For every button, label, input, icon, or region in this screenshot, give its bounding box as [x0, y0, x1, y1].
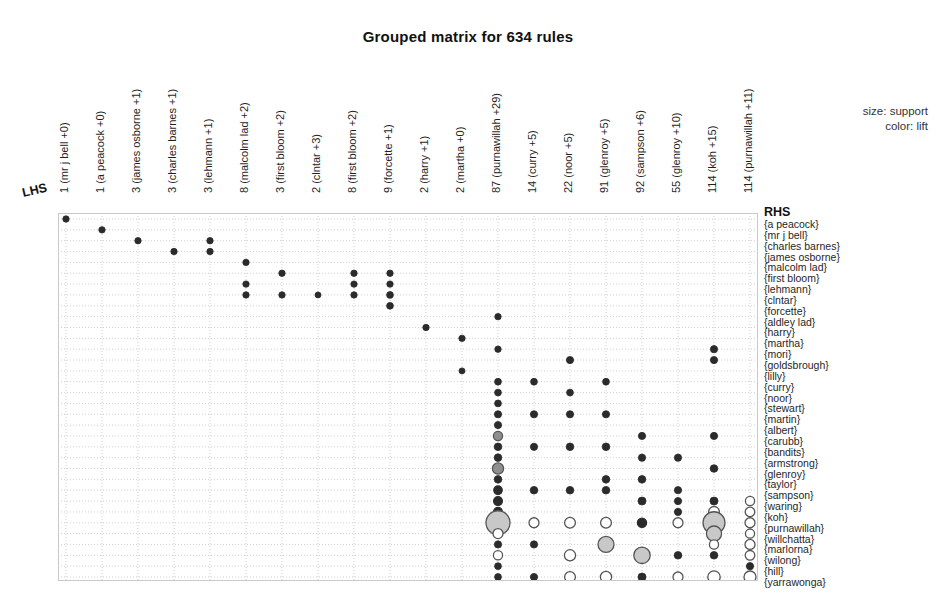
bubble[interactable] [710, 346, 717, 353]
bubble[interactable] [638, 454, 645, 461]
bubble[interactable] [492, 463, 503, 474]
bubble[interactable] [674, 454, 681, 461]
bubble[interactable] [135, 237, 141, 243]
bubble[interactable] [279, 292, 285, 298]
data-points[interactable] [63, 216, 756, 581]
bubble[interactable] [745, 496, 754, 505]
bubble[interactable] [207, 237, 213, 243]
bubble[interactable] [387, 281, 393, 287]
bubble[interactable] [603, 378, 610, 385]
bubble[interactable] [351, 270, 357, 276]
bubble[interactable] [602, 486, 610, 494]
bubble[interactable] [207, 248, 213, 254]
bubble[interactable] [602, 443, 610, 451]
bubble[interactable] [459, 335, 465, 341]
bubble[interactable] [710, 356, 717, 363]
bubble[interactable] [494, 443, 502, 451]
bubble[interactable] [638, 476, 646, 484]
bubble[interactable] [387, 270, 393, 276]
bubble[interactable] [673, 518, 683, 528]
bubble[interactable] [706, 526, 721, 541]
bubble[interactable] [279, 270, 285, 276]
bubble[interactable] [315, 292, 321, 298]
bubble[interactable] [423, 324, 429, 330]
bubble[interactable] [494, 541, 501, 548]
bubble[interactable] [565, 517, 576, 528]
bubble[interactable] [674, 487, 681, 494]
bubble[interactable] [529, 518, 539, 528]
bubble[interactable] [566, 443, 574, 451]
bubble[interactable] [494, 486, 502, 494]
bubble[interactable] [566, 356, 573, 363]
bubble[interactable] [494, 476, 502, 484]
bubble[interactable] [745, 551, 755, 561]
bubble[interactable] [708, 571, 720, 581]
bubble-matrix-svg[interactable] [58, 213, 758, 581]
bubble[interactable] [495, 378, 502, 385]
bubble[interactable] [565, 572, 576, 581]
bubble[interactable] [495, 400, 502, 407]
bubble[interactable] [387, 302, 394, 309]
bubble[interactable] [566, 411, 573, 418]
bubble[interactable] [566, 486, 574, 494]
bubble[interactable] [638, 497, 646, 505]
bubble[interactable] [673, 572, 683, 581]
bubble[interactable] [638, 432, 645, 439]
grouped-matrix-plot[interactable] [58, 213, 758, 581]
bubble[interactable] [744, 571, 756, 581]
bubble[interactable] [493, 431, 502, 440]
bubble[interactable] [493, 551, 502, 560]
bubble[interactable] [602, 476, 610, 484]
bubble[interactable] [601, 517, 612, 528]
bubble[interactable] [530, 443, 537, 450]
bubble[interactable] [243, 292, 249, 298]
bubble[interactable] [63, 216, 69, 222]
bubble[interactable] [600, 571, 611, 581]
bubble[interactable] [495, 389, 502, 396]
bubble[interactable] [745, 507, 755, 517]
bubble[interactable] [674, 508, 681, 515]
bubble[interactable] [598, 536, 614, 552]
bubble[interactable] [494, 497, 503, 506]
bubble[interactable] [530, 541, 537, 548]
bubble[interactable] [493, 529, 503, 539]
bubble[interactable] [710, 465, 718, 473]
bubble[interactable] [602, 411, 609, 418]
bubble[interactable] [494, 422, 501, 429]
bubble[interactable] [495, 574, 502, 581]
bubble[interactable] [637, 518, 646, 527]
bubble[interactable] [495, 346, 501, 352]
bubble[interactable] [351, 281, 357, 287]
bubble[interactable] [494, 454, 502, 462]
bubble[interactable] [387, 292, 394, 299]
bubble[interactable] [745, 518, 755, 528]
bubble[interactable] [564, 550, 575, 561]
bubble[interactable] [674, 497, 681, 504]
bubble[interactable] [530, 573, 537, 580]
bubble[interactable] [634, 547, 650, 563]
bubble[interactable] [495, 563, 502, 570]
bubble[interactable] [710, 497, 718, 505]
bubble[interactable] [171, 248, 177, 254]
bubble[interactable] [745, 529, 754, 538]
bubble[interactable] [710, 552, 718, 560]
bubble[interactable] [99, 227, 105, 233]
bubble[interactable] [709, 540, 718, 549]
bubble[interactable] [530, 486, 538, 494]
row-label: {bandits} [764, 447, 805, 457]
bubble[interactable] [494, 411, 501, 418]
bubble[interactable] [531, 378, 538, 385]
bubble[interactable] [243, 259, 249, 265]
bubble[interactable] [351, 292, 357, 298]
bubble[interactable] [638, 573, 646, 581]
bubble[interactable] [495, 313, 501, 319]
bubble[interactable] [567, 389, 574, 396]
bubble[interactable] [530, 411, 537, 418]
row-label: {harry} [764, 327, 795, 337]
bubble[interactable] [710, 432, 717, 439]
bubble[interactable] [745, 539, 755, 549]
bubble[interactable] [459, 368, 465, 374]
bubble[interactable] [243, 281, 249, 287]
bubble[interactable] [746, 563, 753, 570]
bubble[interactable] [674, 552, 682, 560]
